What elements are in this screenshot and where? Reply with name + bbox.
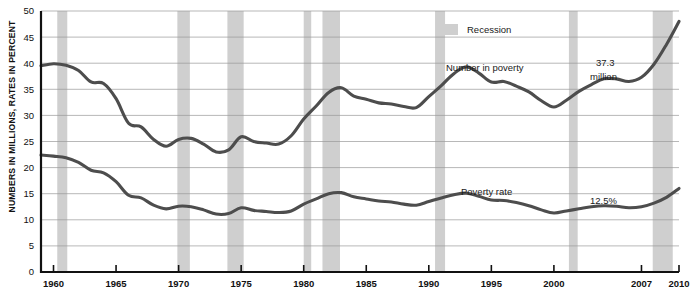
poverty-chart: NUMBERS IN MILLIONS, RATES IN PERCENT 05… xyxy=(0,0,692,303)
y-tick-label: 20 xyxy=(23,162,34,173)
y-tick-label: 45 xyxy=(23,32,34,43)
x-tick-label: 1985 xyxy=(356,278,378,289)
recession-swatch-icon xyxy=(437,24,458,35)
x-tick-label: 1980 xyxy=(293,278,314,289)
x-tick-label: 1960 xyxy=(43,278,64,289)
series-paths-group xyxy=(41,21,679,214)
y-tick-label: 35 xyxy=(23,84,34,95)
x-tick-label: 2007 xyxy=(631,278,652,289)
x-tick-label: 1975 xyxy=(231,278,253,289)
y-tick-label: 50 xyxy=(23,5,34,16)
value-12-5: 12.5% xyxy=(590,195,617,206)
y-tick-label: 10 xyxy=(23,214,34,225)
y-tick-label: 30 xyxy=(23,110,34,121)
series-line-number-in-poverty xyxy=(41,21,679,152)
x-tick-label: 2010 xyxy=(668,278,689,289)
y-tick-label: 15 xyxy=(23,188,34,199)
chart-canvas: 05101520253035404550 1960196519701975198… xyxy=(0,0,692,303)
y-tick-labels-group: 05101520253035404550 xyxy=(23,5,34,277)
x-tick-label: 1970 xyxy=(168,278,189,289)
x-tick-label: 1995 xyxy=(481,278,503,289)
y-tick-label: 40 xyxy=(23,58,34,69)
value-37-3: 37.3 xyxy=(596,57,615,68)
poverty-rate-label: Poverty rate xyxy=(461,186,512,197)
legend-group: Recession xyxy=(437,24,511,35)
gridlines-group xyxy=(41,11,679,272)
recession-legend-label: Recession xyxy=(467,24,511,35)
number-in-poverty-label: Number in poverty xyxy=(446,62,524,73)
series-line-poverty-rate xyxy=(41,155,679,214)
y-tick-label: 25 xyxy=(23,136,34,147)
y-tick-label: 0 xyxy=(29,266,34,277)
x-tick-label: 1990 xyxy=(418,278,439,289)
y-tick-label: 5 xyxy=(29,240,34,251)
x-tick-labels-group: 1960196519701975198019851990199520002007… xyxy=(43,278,690,289)
x-tick-label: 2000 xyxy=(543,278,564,289)
value-million: million xyxy=(590,71,617,82)
axis-lines-group xyxy=(40,11,679,273)
annotations-group: Number in povertyPoverty rate37.3million… xyxy=(446,57,617,206)
x-tick-label: 1965 xyxy=(105,278,127,289)
